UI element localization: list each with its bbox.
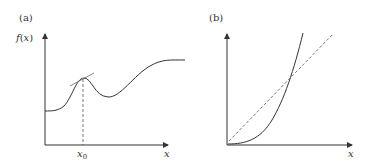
dashed-line-b	[229, 34, 333, 141]
x-axis-label-b: x	[348, 148, 354, 159]
y-axis-label-a: f(x)	[15, 32, 33, 43]
x0-tick-label: x0	[77, 148, 87, 161]
parabola-curve-b	[228, 33, 303, 144]
panel-b: (b) x	[209, 12, 354, 159]
panel-a-label: (a)	[19, 12, 33, 23]
figure: (a) f(x) x0 x (b) x	[0, 0, 370, 165]
panel-b-label: (b)	[209, 12, 223, 23]
function-curve-a	[45, 60, 185, 111]
tangent-line	[70, 73, 94, 86]
panel-a: (a) f(x) x0 x	[15, 12, 185, 161]
x-axis-label-a: x	[164, 148, 170, 159]
